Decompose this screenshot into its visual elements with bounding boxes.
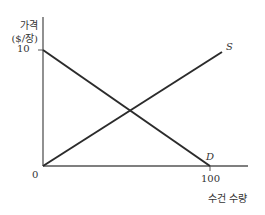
supply-demand-chart xyxy=(0,0,265,215)
origin-label: 0 xyxy=(32,169,38,180)
y-tick-label-10: 10 xyxy=(17,43,30,54)
demand-curve-label: D xyxy=(206,151,214,162)
y-axis-label-line1: 가격 xyxy=(0,19,38,32)
x-axis-label: 수건 수량 xyxy=(208,190,247,205)
demand-curve xyxy=(43,50,210,166)
x-tick-label-100: 100 xyxy=(201,173,220,184)
supply-curve-label: S xyxy=(226,41,233,52)
